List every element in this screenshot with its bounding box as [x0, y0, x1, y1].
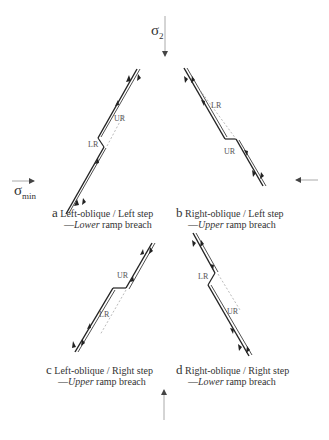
panel-subtitle: ramp breach [94, 376, 146, 387]
ramp-tag-b-lr: LR [211, 101, 221, 110]
sigma-symbol: σ [14, 182, 22, 198]
panel-title: Left-oblique / Right step [54, 365, 153, 376]
sigma2-label: σ2 [151, 22, 164, 41]
fault-d [192, 233, 252, 356]
sigma-subscript: 2 [159, 31, 164, 41]
panel-subtitle: ramp breach [224, 219, 276, 230]
panel-emphasis: Lower [198, 376, 224, 387]
dash: — [58, 376, 68, 387]
sigma-subscript: min [22, 191, 36, 201]
ramp-tag-a-ur: UR [114, 114, 125, 123]
panel-letter: b [176, 205, 183, 220]
caption-d: d Right-oblique / Right step —Lower ramp… [176, 364, 289, 387]
ramp-tag-c-lr: LR [99, 310, 109, 319]
panel-title: Right-oblique / Left step [185, 208, 284, 219]
panel-letter: c [46, 362, 52, 377]
caption-c: c Left-oblique / Right step —Upper ramp … [46, 364, 153, 387]
ramp-tag-c-ur: UR [117, 271, 128, 280]
caption-a: a Left-oblique / Left step —Lower ramp b… [52, 207, 153, 230]
dash: — [188, 219, 198, 230]
ramp-tag-a-lr: LR [88, 140, 98, 149]
panel-title: Left-oblique / Left step [60, 208, 153, 219]
sigma-symbol: σ [151, 22, 159, 38]
caption-b: b Right-oblique / Left step —Upper ramp … [176, 207, 284, 230]
panel-emphasis: Upper [198, 219, 224, 230]
panel-subtitle: ramp breach [224, 376, 276, 387]
ramp-tag-d-ur: UR [227, 307, 238, 316]
fault-c [72, 243, 155, 352]
fault-b [184, 68, 266, 186]
dash: — [188, 376, 198, 387]
panel-letter: d [176, 362, 183, 377]
dash: — [64, 219, 74, 230]
panel-letter: a [52, 205, 58, 220]
ramp-tag-d-lr: LR [198, 272, 208, 281]
panel-emphasis: Upper [68, 376, 94, 387]
fault-a [66, 69, 141, 214]
sigma-min-label: σmin [14, 182, 36, 201]
ramp-tag-b-ur: UR [224, 147, 235, 156]
panel-subtitle: ramp breach [100, 219, 152, 230]
panel-title: Right-oblique / Right step [185, 365, 289, 376]
panel-emphasis: Lower [74, 219, 100, 230]
